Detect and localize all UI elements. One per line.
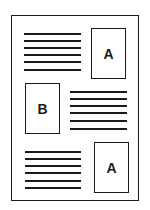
text-line [70, 91, 127, 93]
text-line [24, 47, 81, 49]
box-b-middle: B [25, 83, 60, 134]
text-line [24, 54, 81, 56]
text-block-top-left [24, 33, 81, 73]
text-line [70, 112, 127, 114]
text-line [25, 187, 81, 189]
text-line [25, 151, 81, 153]
text-line [25, 165, 81, 167]
text-line [25, 180, 81, 182]
text-line [24, 61, 81, 63]
text-block-bottom-left [25, 151, 81, 191]
text-line [25, 158, 81, 160]
text-line [70, 128, 127, 130]
text-line [70, 120, 127, 122]
box-a-top: A [91, 28, 126, 79]
text-line [24, 69, 81, 71]
text-line [70, 105, 127, 107]
page-outline: A B A [11, 15, 139, 201]
text-block-middle-right [70, 91, 127, 131]
box-a-bottom: A [94, 142, 129, 193]
text-line [70, 98, 127, 100]
box-label: A [103, 47, 113, 61]
text-line [25, 172, 81, 174]
text-line [24, 40, 81, 42]
text-line [24, 33, 81, 35]
box-label: B [37, 102, 47, 116]
box-label: A [106, 161, 116, 175]
